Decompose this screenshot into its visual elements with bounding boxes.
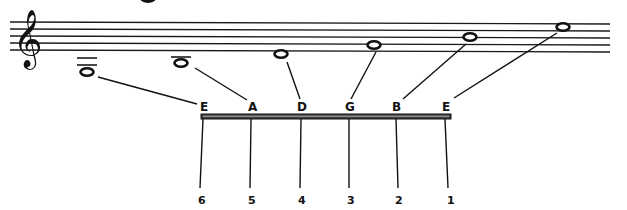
string-number-label: 4 <box>298 194 306 207</box>
nut-highlight <box>203 116 449 118</box>
whole-note-a-string-5 <box>175 59 188 67</box>
guitar-string-5 <box>250 119 251 188</box>
string-number-labels: 6 5 4 3 2 1 <box>198 194 455 207</box>
staff-line <box>10 36 610 38</box>
guitar-string-1 <box>445 119 448 188</box>
whole-note-b-string-2 <box>464 33 477 41</box>
note-name-labels: E A D G B E <box>200 100 450 114</box>
nut <box>201 114 451 119</box>
whole-note-e-string-6 <box>81 68 94 76</box>
leader-line <box>287 62 300 99</box>
staff-line <box>10 29 610 31</box>
string-number-label: 5 <box>248 194 256 207</box>
whole-note-e-string-1 <box>557 23 570 31</box>
leader-line <box>195 68 247 100</box>
partial-note-head <box>140 0 156 3</box>
guitar-string-4 <box>300 119 301 188</box>
leader-line <box>454 33 557 98</box>
leader-line <box>403 44 466 99</box>
staff <box>10 22 610 52</box>
guitar-string-6 <box>200 119 203 188</box>
note-name-label: D <box>297 100 307 114</box>
leader-line <box>98 77 197 104</box>
string-number-label: 1 <box>447 194 455 207</box>
note-name-label: B <box>392 100 401 114</box>
whole-note-g-string-3 <box>368 41 381 49</box>
string-number-label: 2 <box>395 194 403 207</box>
guitar-string-2 <box>396 119 398 188</box>
note-name-label: A <box>248 100 258 114</box>
staff-line <box>10 50 610 52</box>
string-number-label: 3 <box>347 194 355 207</box>
treble-clef-icon: 𝄞 <box>13 9 43 70</box>
leader-line <box>351 52 376 99</box>
note-name-label: E <box>442 100 450 114</box>
staff-line <box>10 22 610 24</box>
string-number-label: 6 <box>198 194 206 207</box>
whole-note-d-string-4 <box>275 50 288 58</box>
staff-line <box>10 43 610 45</box>
note-name-label: E <box>200 100 208 114</box>
guitar-open-strings-diagram: 𝄞 E A D G B E 6 5 4 3 2 1 <box>0 0 627 210</box>
strings-layer <box>200 119 448 188</box>
note-name-label: G <box>345 100 355 114</box>
